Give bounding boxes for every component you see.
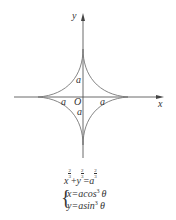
parametric-y-equation: y=asin3 θ — [67, 200, 105, 211]
x-axis-label: x — [158, 99, 162, 109]
cartesian-equation: x23+y23=a23 — [64, 168, 97, 186]
y-axis-label: y — [72, 11, 76, 21]
astroid-diagram — [0, 0, 176, 220]
intercept-label-top: a — [76, 75, 81, 85]
intercept-label-left: a — [61, 97, 66, 107]
y-axis-arrow-icon — [81, 13, 85, 21]
intercept-label-bottom: a — [77, 107, 82, 117]
exponent-fraction: 23 — [94, 168, 97, 179]
parametric-x-equation: x=acos3 θ — [67, 188, 106, 199]
intercept-label-right: a — [100, 97, 105, 107]
